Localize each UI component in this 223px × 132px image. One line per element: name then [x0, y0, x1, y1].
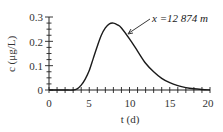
- x-axis-label: t (d): [121, 113, 140, 126]
- y-tick-label: 0.2: [29, 36, 43, 48]
- y-tick-label: 0: [38, 84, 44, 96]
- y-axis-label: c (μg/L): [5, 36, 18, 72]
- annotation-label: x =12 874 m: [151, 12, 208, 24]
- x-tick-label: 15: [165, 97, 177, 109]
- x-tick-label: 10: [125, 97, 137, 109]
- y-tick-label: 0.1: [29, 60, 43, 72]
- x-tick-label: 20: [203, 97, 215, 109]
- chart: 0.3 0.2 0.1 0 0 5 10 15 20 t (d) c (μg/L…: [0, 0, 223, 132]
- y-tick-label: 0.3: [29, 11, 43, 23]
- annotation-arrow: [129, 19, 150, 33]
- x-tick-label: 0: [46, 97, 52, 109]
- x-tick-label: 5: [86, 97, 92, 109]
